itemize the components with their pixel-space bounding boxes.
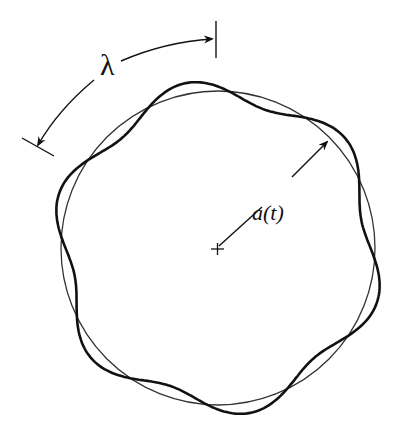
radius-label: a(t) — [252, 200, 284, 226]
wavelength-dimension — [22, 21, 216, 156]
wavelength-tick-left — [22, 138, 54, 156]
center-marker — [211, 243, 224, 255]
perturbed-circle-diagram — [0, 0, 403, 432]
radius-arrow — [219, 142, 327, 246]
wavelength-label: λ — [100, 48, 115, 82]
